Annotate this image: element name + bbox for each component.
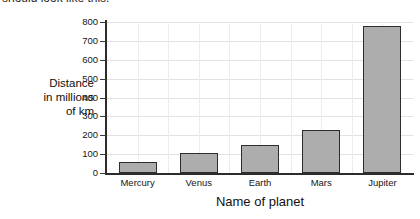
y-axis-tick-mark xyxy=(100,79,106,80)
gridline-vertical xyxy=(352,22,353,173)
x-axis-line xyxy=(105,173,414,175)
y-axis-tick-mark xyxy=(100,60,106,61)
y-axis-tick-mark xyxy=(100,41,106,42)
x-axis-category-label-mars: Mars xyxy=(291,177,352,188)
y-axis-tick-mark xyxy=(100,116,106,117)
x-axis-category-label-jupiter: Jupiter xyxy=(352,177,413,188)
x-axis-category-label-venus: Venus xyxy=(168,177,229,188)
bar-mars xyxy=(302,130,340,173)
y-axis-tick-mark xyxy=(100,135,106,136)
y-axis-tick-mark xyxy=(100,154,106,155)
y-axis-tick-label: 800 xyxy=(72,17,98,27)
y-axis-tick-mark xyxy=(100,22,106,23)
y-axis-title-line: Distance xyxy=(6,76,94,90)
x-axis-category-label-earth: Earth xyxy=(229,177,290,188)
y-axis-title: Distancein millionsof km xyxy=(6,76,94,118)
y-axis-title-line: of km xyxy=(6,104,94,118)
gridline-vertical xyxy=(199,22,200,173)
bar-mercury xyxy=(119,162,157,173)
y-axis-tick-mark xyxy=(100,98,106,99)
y-axis-tick-label: 600 xyxy=(72,55,98,65)
x-axis-category-label-mercury: Mercury xyxy=(107,177,168,188)
y-axis-tick-label: 200 xyxy=(72,130,98,140)
bar-chart-figure: 0100200300400500600700800 Distancein mil… xyxy=(0,0,420,219)
gridline-vertical xyxy=(229,22,230,173)
y-axis-title-line: in millions xyxy=(6,90,94,104)
x-axis-title: Name of planet xyxy=(107,194,413,210)
gridline-vertical xyxy=(138,22,139,173)
y-axis-tick-label: 0 xyxy=(72,168,98,178)
bar-venus xyxy=(180,153,218,173)
gridline-vertical xyxy=(168,22,169,173)
gridline-vertical xyxy=(291,22,292,173)
y-axis-tick-mark xyxy=(100,173,106,174)
bar-earth xyxy=(241,145,279,173)
bar-jupiter xyxy=(363,26,401,173)
y-axis-tick-label: 700 xyxy=(72,36,98,46)
y-axis-tick-label: 100 xyxy=(72,149,98,159)
